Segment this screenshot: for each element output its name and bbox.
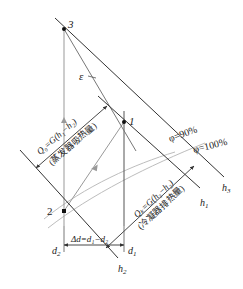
d2-label: d2 (52, 245, 61, 258)
point-1-label: 1 (129, 115, 135, 127)
q0-dimension-line (36, 106, 107, 168)
point-3-label: 3 (67, 18, 74, 30)
point-2-label: 2 (47, 205, 53, 217)
psychrometric-diagram: 3 1 2 ε φ=90% φ=100% h3 h1 h2 d2 d1 Δd=d… (0, 0, 243, 289)
epsilon-label: ε (79, 70, 84, 82)
point-2 (62, 209, 66, 213)
delta-d-label: Δd=d₁−d₂ (70, 234, 108, 244)
h3-label: h3 (222, 182, 231, 195)
d1-label: d1 (128, 245, 137, 258)
point-3 (62, 27, 66, 31)
phi-100-label: φ=100% (192, 136, 228, 155)
h2-label: h2 (118, 263, 127, 276)
epsilon-line (64, 29, 136, 151)
h1-label: h1 (200, 197, 209, 210)
phi-90-label: φ=90% (167, 123, 199, 144)
point-1 (122, 120, 126, 124)
